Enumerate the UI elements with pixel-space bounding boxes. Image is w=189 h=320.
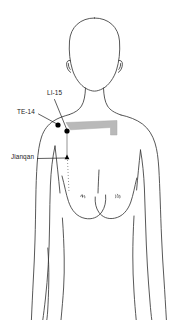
right-arm-inner-edge [141,150,152,320]
sternum-dotted-line [68,160,70,192]
neck-left [70,88,86,115]
point-marker-te14[interactable] [55,122,60,127]
waist-left [61,218,64,320]
neck-right [104,88,122,115]
right-ear-inner [119,64,121,70]
point-label-jianqan: Jianqan [11,154,34,160]
sternum-midline [98,170,99,193]
point-label-li15: LI-15 [47,90,62,96]
clavicle-shaded-region [66,121,117,136]
torso-right-flank [137,150,141,190]
torso-left-flank [55,146,60,193]
point-marker-jianqan[interactable] [65,155,70,160]
head-outline [69,18,119,91]
right-nipple [116,194,120,198]
left-nipple [80,195,84,198]
left-arm-inner-edge [43,146,55,320]
right-shoulder-arm [121,115,166,320]
point-marker-li15[interactable] [64,128,69,133]
point-label-te14: TE-14 [17,109,35,115]
waist-right [133,216,136,320]
acupuncture-diagram-page: LI-15 TE-14 Jianqan [0,0,189,320]
leader-line-te14 [39,114,58,124]
leader-lines-group [38,100,68,159]
left-ear-inner [68,64,70,70]
body-outline-group [31,18,166,320]
leader-line-jianqan [38,158,67,159]
